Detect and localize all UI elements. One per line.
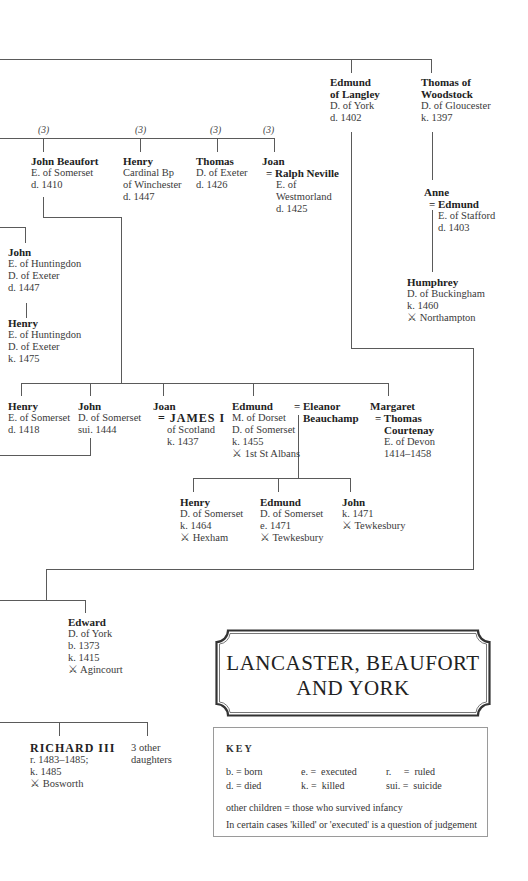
- person-title: E. of Somerset: [31, 167, 99, 179]
- line-holland-in: [0, 227, 26, 228]
- person-dates: k. 1455: [232, 436, 300, 448]
- person-dates: d. 1410: [31, 179, 99, 191]
- marriage-marker: (3): [210, 125, 221, 135]
- spouse-name: = JAMES I: [153, 412, 225, 424]
- title-cartouche: LANCASTER, BEAUFORT AND YORK: [215, 629, 491, 717]
- key-entry: e. = executed: [301, 766, 357, 777]
- person-title: Cardinal Bp: [123, 167, 182, 179]
- person-name: Margaret: [370, 400, 435, 412]
- person-dates: d. 1426: [196, 179, 248, 191]
- spouse-name: Beauchamp: [294, 412, 359, 424]
- spouse-title: of Scotland: [153, 424, 225, 436]
- title-line: AND YORK: [215, 676, 491, 701]
- spouse-name: = Thomas: [370, 412, 435, 424]
- person-dates: k. 1471: [342, 508, 406, 520]
- person-title: D. of Exeter: [196, 167, 248, 179]
- person-john-somerset-2: John k. 1471 ⚔ Tewkesbury: [342, 496, 406, 532]
- line-somerset-children: [21, 383, 389, 384]
- key-entry: k. = killed: [301, 780, 344, 791]
- person-thomas-of-woodstock: Thomas of Woodstock D. of Gloucester k. …: [421, 76, 491, 124]
- battle-icon: ⚔: [260, 532, 270, 543]
- line-drop: [253, 383, 254, 396]
- chart-title: LANCASTER, BEAUFORT AND YORK: [215, 651, 491, 701]
- key-note: In certain cases 'killed' or 'executed' …: [226, 819, 477, 830]
- person-dates: e. 1471: [260, 520, 324, 532]
- person-joan-beaufort: Joan = Ralph Neville E. of Westmorland d…: [262, 155, 339, 215]
- key-note: other children = those who survived infa…: [226, 802, 403, 813]
- person-dates: d. 1418: [8, 424, 70, 436]
- line-drop-langley: [351, 59, 352, 73]
- marriage-marker: (3): [38, 125, 49, 135]
- battle-name: Bosworth: [43, 778, 84, 789]
- key-entry: d. = died: [226, 780, 261, 791]
- spouse-name: Courtenay: [370, 424, 435, 436]
- person-thomas-exeter: Thomas D. of Exeter d. 1426: [196, 155, 248, 191]
- spouse-name: = Eleanor: [294, 400, 359, 412]
- line-jsomerset-out: [0, 455, 91, 456]
- line-drop: [90, 383, 91, 396]
- line-drop: [193, 478, 194, 492]
- battle-icon: ⚔: [342, 520, 352, 531]
- person-joan-somerset: Joan = JAMES I of Scotland k. 1437: [153, 400, 225, 448]
- line-drop-richard: [59, 722, 60, 736]
- person-name: Joan: [262, 155, 339, 167]
- person-title: D. of Exeter: [8, 341, 81, 353]
- spouse-dates: k. 1437: [153, 436, 225, 448]
- key-entry: r. = ruled: [386, 766, 435, 777]
- line-drop: [278, 478, 279, 492]
- person-name: Thomas of: [421, 76, 491, 88]
- person-dates: d. 1447: [123, 191, 182, 203]
- spouse-dates: d. 1403: [424, 222, 495, 234]
- key-heading: KEY: [226, 743, 254, 754]
- spouse-name: = Ralph Neville: [262, 167, 339, 179]
- person-title: D. of Exeter: [8, 270, 81, 282]
- person-name: John Beaufort: [31, 155, 99, 167]
- person-name: Henry: [123, 155, 182, 167]
- spouse-title: E. of: [262, 179, 339, 191]
- line-drop: [274, 138, 275, 152]
- key-box: KEY b. = born e. = executed r. = ruled d…: [213, 727, 488, 837]
- person-edmund-of-langley: Edmund of Langley D. of York d. 1402: [330, 76, 380, 124]
- spouse-name: = Edmund: [424, 198, 495, 210]
- person-title: D. of Somerset: [260, 508, 324, 520]
- person-name: Woodstock: [421, 88, 491, 100]
- person-dates: k. 1475: [8, 353, 81, 365]
- person-title: D. of Somerset: [232, 424, 300, 436]
- person-title: E. of Somerset: [8, 412, 70, 424]
- spouse-title: E. of Devon: [370, 436, 435, 448]
- spouse-title: E. of Stafford: [424, 210, 495, 222]
- person-henry-holland: Henry E. of Huntingdon D. of Exeter k. 1…: [8, 317, 81, 365]
- line-drop-daughters: [147, 722, 148, 736]
- person-john-holland: John E. of Huntingdon D. of Exeter d. 14…: [8, 246, 81, 294]
- line-jbeaufort-across: [43, 217, 122, 218]
- person-title: E. of Huntingdon: [8, 258, 81, 270]
- person-reign: r. 1483–1485;: [30, 754, 115, 766]
- line-jsomerset-descent: [90, 438, 91, 456]
- battle-icon: ⚔: [232, 448, 242, 459]
- person-edward-york: Edward D. of York b. 1373 k. 1415 ⚔ Agin…: [68, 616, 123, 676]
- person-name: Edmund: [330, 76, 380, 88]
- person-name: John: [8, 246, 81, 258]
- person-title: of Winchester: [123, 179, 182, 191]
- person-name: John: [78, 400, 141, 412]
- person-name: Henry: [8, 317, 81, 329]
- person-henry-somerset: Henry E. of Somerset d. 1418: [8, 400, 70, 436]
- other-daughters: 3 other daughters: [131, 742, 172, 766]
- person-dates: k. 1415: [68, 652, 123, 664]
- key-entry: sui. = suicide: [386, 780, 442, 791]
- marriage-marker: (3): [263, 125, 274, 135]
- person-richard-iii: RICHARD III r. 1483–1485; k. 1485 ⚔ Bosw…: [30, 742, 115, 790]
- line-york-lower: [46, 569, 474, 570]
- person-dates: k. 1397: [421, 112, 491, 124]
- person-dates: k. 1460: [407, 300, 485, 312]
- person-name: Humphrey: [407, 276, 485, 288]
- battle-name: Tewkesbury: [354, 520, 405, 531]
- battle-name: Agincourt: [80, 664, 123, 675]
- spouse-eleanor-beauchamp: = Eleanor Beauchamp: [294, 400, 359, 424]
- person-title: D. of Somerset: [180, 508, 243, 520]
- key-entry: b. = born: [226, 766, 262, 777]
- person-title: D. of York: [68, 628, 123, 640]
- battle-name: Northampton: [420, 312, 476, 323]
- line-drop: [217, 138, 218, 152]
- person-dates: d. 1447: [8, 282, 81, 294]
